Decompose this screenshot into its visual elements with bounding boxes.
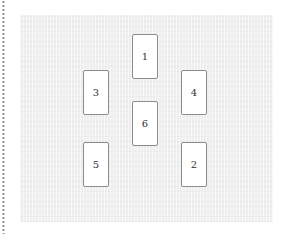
dotted-margin-line: [2, 0, 5, 234]
card-position-2[interactable]: 2: [181, 142, 207, 187]
card-position-5[interactable]: 5: [83, 142, 109, 187]
card-label: 1: [142, 51, 148, 62]
card-position-3[interactable]: 3: [83, 70, 109, 115]
card-label: 3: [93, 87, 99, 98]
card-position-6[interactable]: 6: [132, 101, 158, 146]
card-spread-board: 1 2 3 4 5 6: [20, 15, 273, 222]
card-position-4[interactable]: 4: [181, 70, 207, 115]
card-label: 2: [191, 159, 197, 170]
card-label: 6: [142, 118, 148, 129]
card-position-1[interactable]: 1: [132, 34, 158, 79]
card-label: 5: [93, 159, 99, 170]
card-label: 4: [191, 87, 197, 98]
